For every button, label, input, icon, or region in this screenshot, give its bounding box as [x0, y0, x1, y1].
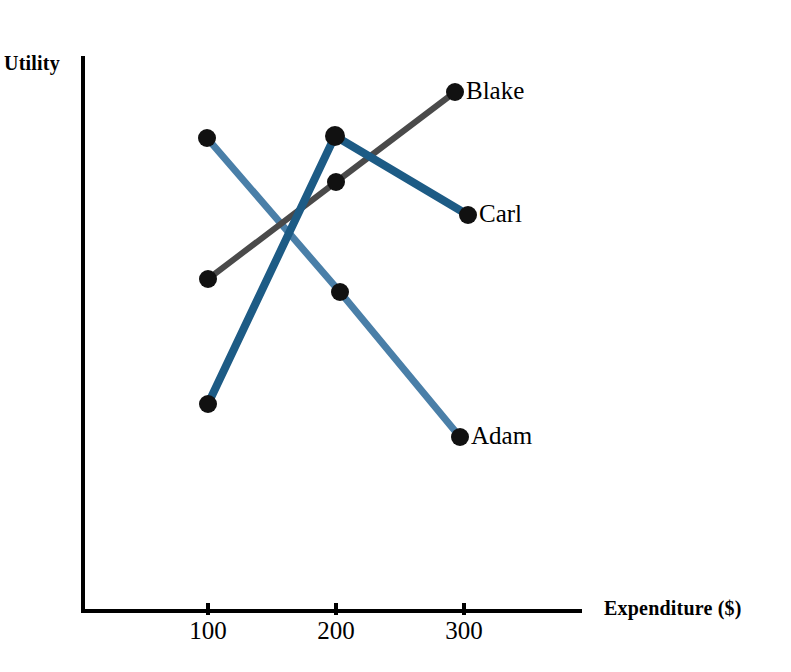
marker-adam-300 [451, 428, 469, 446]
series-label-adam: Adam [471, 422, 532, 450]
plot-area [0, 0, 791, 672]
x-tick-label-200: 200 [317, 617, 355, 645]
x-tick-label-100: 100 [189, 617, 227, 645]
series-label-carl: Carl [479, 200, 522, 228]
marker-adam-100 [198, 129, 216, 147]
x-axis-title: Expenditure ($) [604, 597, 742, 620]
marker-carl-200 [325, 126, 345, 146]
marker-carl-300 [459, 206, 477, 224]
data-point-markers [198, 83, 477, 446]
marker-blake-300 [446, 83, 464, 101]
marker-carl-100 [199, 395, 217, 413]
x-tick-label-300: 300 [445, 617, 483, 645]
marker-blake-200 [327, 173, 345, 191]
y-axis-title: Utility [4, 52, 60, 75]
chart-figure: Utility Expenditure ($) 100 200 300 Blak… [0, 0, 791, 672]
marker-adam-200 [331, 283, 349, 301]
marker-blake-100 [199, 270, 217, 288]
series-label-blake: Blake [466, 77, 524, 105]
